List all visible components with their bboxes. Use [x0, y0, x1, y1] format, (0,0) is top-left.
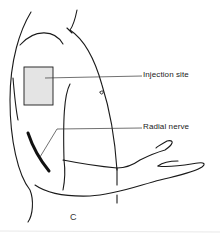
panel-letter: C — [70, 212, 77, 222]
radial-nerve-label: Radial nerve — [143, 122, 189, 131]
injection-site-label: Injection site — [143, 70, 189, 79]
arm-injection-diagram: Injection site Radial nerve C — [0, 0, 220, 237]
arm-illustration — [0, 0, 220, 237]
radial-nerve-path — [28, 133, 49, 171]
injection-site-area — [24, 67, 53, 105]
